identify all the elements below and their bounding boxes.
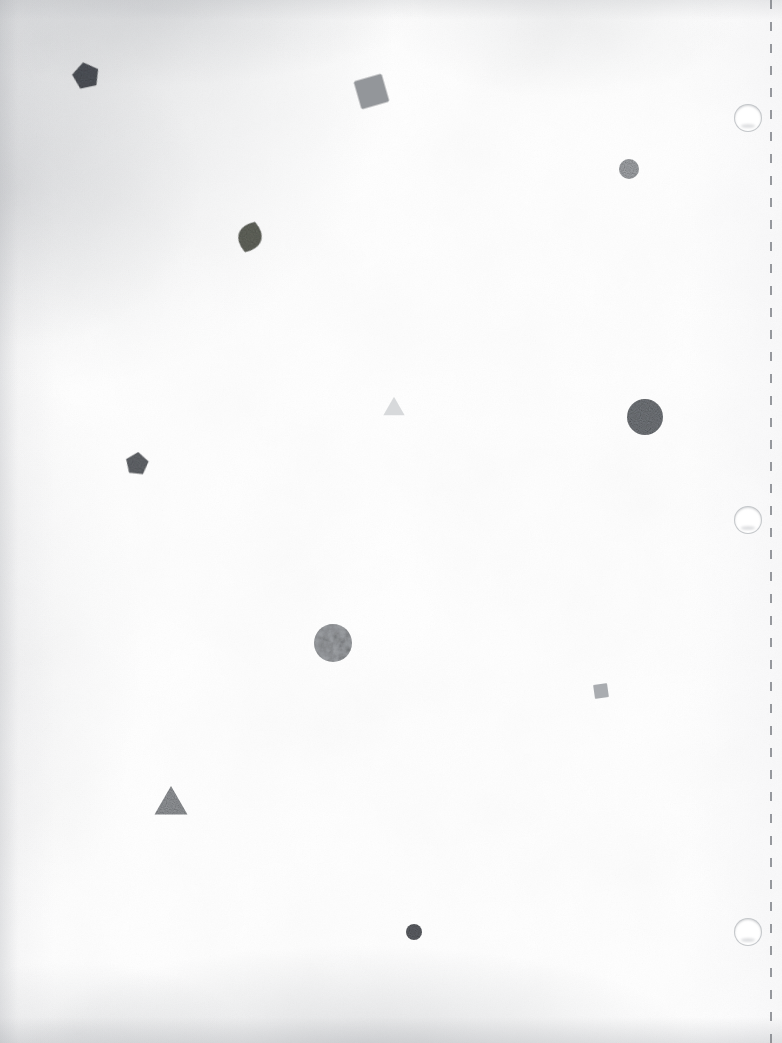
- scanned-page: [0, 0, 782, 1043]
- square-glyph: [581, 671, 621, 711]
- square-small-gray-right: [581, 671, 621, 711]
- punch-hole-top: [735, 105, 761, 131]
- leaf-olive-upper-left: [205, 192, 295, 282]
- circle-textured-center: [279, 589, 387, 697]
- pentagon-glyph: [106, 433, 168, 495]
- circle-glyph: [601, 141, 657, 197]
- circle-glyph: [594, 366, 696, 468]
- pentagon-dark-top-left: [49, 39, 123, 113]
- perforation-line: [770, 0, 772, 1043]
- circle-dot-dark-bottom: [391, 909, 437, 955]
- circle-glyph: [279, 589, 387, 697]
- triangle-pale-center: [363, 378, 425, 440]
- triangle-glyph: [123, 757, 219, 853]
- punch-hole-middle: [735, 507, 761, 533]
- pentagon-glyph: [49, 39, 123, 113]
- triangle-gray-lower-left: [123, 757, 219, 853]
- circle-small-gray-upper-right: [601, 141, 657, 197]
- pentagon-gray-mid-left: [106, 433, 168, 495]
- punch-hole-bottom: [735, 919, 761, 945]
- triangle-glyph: [363, 378, 425, 440]
- circle-glyph: [391, 909, 437, 955]
- leaf-glyph: [205, 192, 295, 282]
- paper-background: [0, 0, 782, 1043]
- square-gray-top-center: [330, 50, 413, 133]
- square-glyph: [330, 50, 413, 133]
- circle-large-gray-right: [594, 366, 696, 468]
